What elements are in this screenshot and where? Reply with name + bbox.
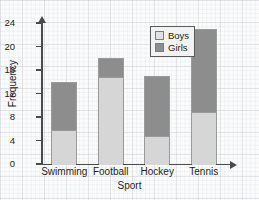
y-axis-tick-label: 4 [0,136,15,146]
bar-hockey [144,76,170,164]
legend-swatch-girls-icon [155,43,164,52]
bar-segment-girls [52,83,76,130]
bar-segment-boys [145,136,169,165]
bar-swimming [51,82,77,164]
x-axis-label-tennis: Tennis [169,166,239,177]
chart-legend: Boys Girls [150,26,195,57]
y-axis-tick-label: 0 [0,159,15,169]
x-axis-title: Sport [0,180,259,191]
bar-segment-girls [99,59,123,77]
bar-segment-boys [99,77,123,165]
legend-label-girls: Girls [168,42,188,53]
legend-item-boys: Boys [155,29,189,41]
legend-swatch-boys-icon [155,31,164,40]
stacked-bar-chart: 24201612840 SwimmingFootballHockeyTennis… [0,0,259,200]
bar-football [98,58,124,164]
bar-segment-girls [192,30,216,112]
plot-area [41,23,227,164]
bar-segment-boys [192,112,216,165]
y-axis-tick-label: 24 [0,18,15,28]
legend-label-boys: Boys [168,30,189,41]
bar-segment-boys [52,130,76,165]
bar-segment-girls [145,77,169,136]
y-axis-title: Frequency [7,38,18,130]
legend-item-girls: Girls [155,41,189,53]
